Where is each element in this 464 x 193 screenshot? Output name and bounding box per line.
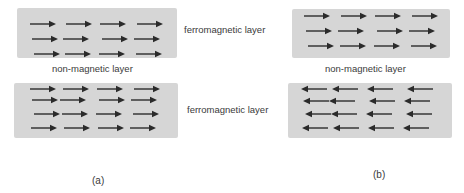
panel-b-caption: (b) xyxy=(373,169,385,181)
panel-a-top-ferromagnetic-layer xyxy=(17,8,177,58)
arrow-right-icon xyxy=(65,51,91,57)
arrow-left-icon xyxy=(332,86,358,92)
arrow-right-icon xyxy=(136,51,162,57)
arrow-right-icon xyxy=(30,21,56,27)
arrow-right-icon xyxy=(409,28,435,34)
arrow-left-icon xyxy=(367,86,393,92)
arrow-right-icon xyxy=(134,36,160,42)
arrow-right-icon xyxy=(63,86,89,92)
arrow-left-icon xyxy=(407,86,433,92)
arrow-right-icon xyxy=(133,111,159,117)
arrow-right-icon xyxy=(96,111,122,117)
arrow-right-icon xyxy=(137,21,163,27)
arrow-right-icon xyxy=(34,51,60,57)
arrow-right-icon xyxy=(375,13,401,19)
arrow-right-icon xyxy=(308,43,334,49)
arrow-right-icon xyxy=(377,28,403,34)
arrow-right-icon xyxy=(62,111,88,117)
arrow-right-icon xyxy=(64,125,90,131)
arrow-right-icon xyxy=(99,97,125,103)
arrow-right-icon xyxy=(99,51,125,57)
arrow-left-icon xyxy=(331,111,357,117)
panel-a-bottom-ferromagnetic-layer xyxy=(14,83,178,138)
panel-b-top-ferromagnetic-layer xyxy=(292,9,450,58)
arrow-right-icon xyxy=(66,21,92,27)
ferromagnetic-label-top: ferromagnetic layer xyxy=(184,24,265,36)
arrow-right-icon xyxy=(134,86,160,92)
arrow-right-icon xyxy=(32,97,58,103)
arrow-right-icon xyxy=(100,21,126,27)
arrow-left-icon xyxy=(406,111,432,117)
arrow-left-icon xyxy=(305,111,331,117)
arrow-right-icon xyxy=(60,97,86,103)
arrow-right-icon xyxy=(34,111,60,117)
arrow-left-icon xyxy=(301,86,327,92)
arrow-right-icon xyxy=(63,36,89,42)
arrow-left-icon xyxy=(333,125,359,131)
arrow-right-icon xyxy=(341,13,367,19)
arrow-right-icon xyxy=(340,43,366,49)
panel-b-non-magnetic-label: non-magnetic layer xyxy=(325,63,406,75)
arrow-right-icon xyxy=(306,28,332,34)
arrow-left-icon xyxy=(369,98,395,104)
arrow-right-icon xyxy=(130,125,156,131)
arrow-right-icon xyxy=(412,13,438,19)
arrow-right-icon xyxy=(32,36,58,42)
panel-b-top-arrows xyxy=(292,9,450,58)
arrow-right-icon xyxy=(97,86,123,92)
arrow-left-icon xyxy=(366,111,392,117)
ferromagnetic-label-bottom: ferromagnetic layer xyxy=(187,104,268,116)
arrow-left-icon xyxy=(403,125,429,131)
arrow-left-icon xyxy=(302,125,328,131)
panel-a-top-arrows xyxy=(17,8,177,58)
arrow-left-icon xyxy=(368,125,394,131)
arrow-right-icon xyxy=(102,36,128,42)
arrow-right-icon xyxy=(98,125,124,131)
arrow-right-icon xyxy=(338,28,364,34)
arrow-left-icon xyxy=(329,98,355,104)
arrow-right-icon xyxy=(31,125,57,131)
arrow-left-icon xyxy=(404,98,430,104)
panel-a-caption: (a) xyxy=(92,175,104,187)
arrow-right-icon xyxy=(304,13,330,19)
panel-a-bottom-arrows xyxy=(14,83,178,138)
arrow-right-icon xyxy=(30,86,56,92)
arrow-right-icon xyxy=(374,43,400,49)
arrow-left-icon xyxy=(303,98,329,104)
panel-b-bottom-arrows xyxy=(288,83,452,138)
arrow-right-icon xyxy=(411,43,437,49)
panel-a-non-magnetic-label: non-magnetic layer xyxy=(52,63,133,75)
arrow-right-icon xyxy=(131,97,157,103)
panel-b-bottom-ferromagnetic-layer xyxy=(288,83,452,138)
